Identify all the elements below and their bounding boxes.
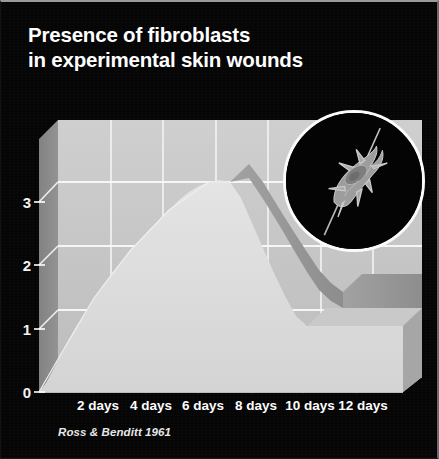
figure-panel: Presence of fibroblasts in experimental … bbox=[0, 0, 439, 459]
fibroblast-cell-image bbox=[286, 113, 422, 249]
x-tick-label-12-days: 12 days bbox=[324, 398, 402, 413]
source-citation: Ross & Benditt 1961 bbox=[58, 426, 171, 438]
fibroblast-micrograph-inset bbox=[283, 110, 425, 252]
